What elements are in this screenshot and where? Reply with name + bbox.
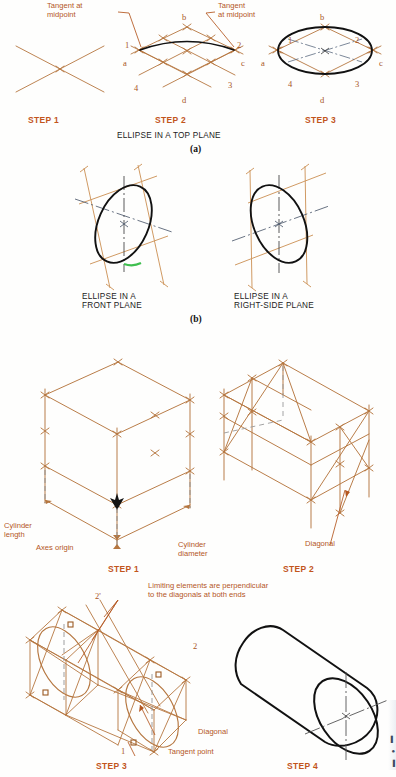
callout-tangent-point: Tangent point — [168, 748, 214, 757]
step-label-c1: STEP 1 — [108, 565, 139, 574]
front-plane-green-mark — [124, 263, 141, 265]
point-label-c: c — [241, 59, 245, 68]
right-plane-centerlines — [232, 175, 329, 273]
front-plane-centerlines — [75, 176, 172, 272]
caption-ellipse-top-plane: ELLIPSE IN A TOP PLANE — [117, 132, 221, 141]
edge-mark-3: ▐ — [391, 760, 395, 766]
step1-isometric-box — [41, 359, 194, 549]
technical-drawing-canvas — [0, 0, 396, 777]
step3-center-lines — [288, 39, 362, 62]
right-plane-construction — [235, 164, 326, 291]
point-label-d: d — [182, 96, 186, 105]
step1-top-plane-axes — [16, 46, 104, 92]
callout-cylinder-length: Cylinder length — [4, 522, 32, 540]
edge-mark-2: ● — [391, 748, 395, 754]
step-label-a3: STEP 3 — [305, 116, 336, 125]
point-label-4-step3: 4 — [288, 80, 292, 89]
step-label-a1: STEP 1 — [28, 116, 59, 125]
point-label-b: b — [182, 13, 186, 22]
point-label-3-step3: 3 — [355, 80, 359, 89]
callout-cylinder-diameter: Cylinder diameter — [178, 541, 208, 559]
point-label-2: 2 — [237, 41, 241, 50]
point-label-3: 3 — [228, 81, 232, 90]
point-label-a: a — [123, 59, 127, 68]
step-label-c2: STEP 2 — [283, 565, 314, 574]
point-label-2-step3c: 2 — [193, 642, 197, 651]
edge-mark-1: ▌ — [391, 736, 395, 742]
point-label-2-prime: 2' — [95, 592, 101, 601]
caption-right-side-plane: ELLIPSE IN A RIGHT-SIDE PLANE — [234, 293, 314, 311]
callout-tangent-left: Tangent at midpoint — [47, 2, 82, 20]
point-label-1-step3c: 1 — [121, 747, 125, 756]
figure-page: Tangent at midpoint Tangent at midpoint … — [0, 0, 396, 777]
step-label-c4: STEP 4 — [287, 762, 318, 771]
step4-cylinder — [236, 626, 391, 765]
step-label-c3: STEP 3 — [96, 762, 127, 771]
callout-diagonal-step2: Diagonal — [305, 540, 335, 549]
axes-origin-marker — [110, 493, 124, 510]
step-label-a2: STEP 2 — [155, 116, 186, 125]
callout-axes-origin: Axes origin — [36, 544, 74, 553]
tangent-point-markers — [43, 622, 161, 745]
point-label-b-step3: b — [320, 13, 324, 22]
sublabel-b: (b) — [190, 314, 202, 324]
point-label-a-step3: a — [261, 59, 265, 68]
step2-rhombus — [131, 24, 243, 87]
point-label-d-step3: d — [320, 96, 324, 105]
callout-tangent-right: Tangent at midpoint — [218, 2, 255, 20]
caption-front-plane: ELLIPSE IN A FRONT PLANE — [82, 293, 142, 311]
sublabel-a: (a) — [190, 144, 201, 154]
callout-limiting-elements: Limiting elements are perpendicular to t… — [148, 582, 268, 600]
point-label-1: 1 — [125, 41, 129, 50]
point-label-2-step3: 2 — [355, 36, 359, 45]
step3-cylinder-construction — [26, 600, 190, 755]
step2-isometric-box — [220, 360, 373, 528]
point-label-4: 4 — [134, 84, 138, 93]
point-label-1-step3: 1 — [288, 36, 292, 45]
callout-diagonal-step3: Diagonal — [198, 728, 228, 737]
front-plane-construction — [79, 164, 168, 290]
point-label-c-step3: c — [379, 59, 383, 68]
